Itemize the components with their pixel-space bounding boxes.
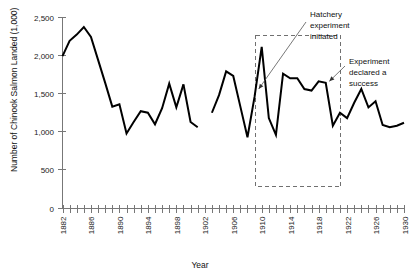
annotation-line: success (349, 79, 378, 88)
x-tick-label: 1918 (315, 216, 324, 234)
x-tick-label: 1898 (173, 216, 182, 234)
chart-container: 2,500 2,000 1,500 1,000 500 0 Number of … (0, 0, 411, 276)
x-tick-label: 1922 (344, 216, 353, 234)
y-axis-title: Number of Chinook Salmon Landed (1,000) (9, 7, 19, 172)
annotation-line: initiated (310, 32, 338, 41)
x-tick-label: 1906 (230, 216, 239, 234)
x-tick-label: 1886 (87, 216, 96, 234)
annotation-line: experiment (310, 21, 350, 30)
annotation-line: Experiment (349, 57, 390, 66)
y-tick-label: 2,000 (34, 52, 55, 61)
y-tick-label: 500 (41, 166, 55, 175)
x-tick-label: 1926 (372, 216, 381, 234)
x-tick-label: 1882 (59, 216, 68, 234)
x-tick-label: 1930 (401, 216, 410, 234)
y-tick-label: 1,000 (34, 128, 55, 137)
y-tick-label: 2,500 (34, 14, 55, 23)
y-tick-label: 0 (50, 205, 55, 214)
x-tick-label: 1894 (144, 216, 153, 234)
y-tick-label: 1,500 (34, 90, 55, 99)
x-tick-label: 1890 (116, 216, 125, 234)
salmon-landings-chart: 2,500 2,000 1,500 1,000 500 0 Number of … (0, 0, 411, 276)
annotation-line: declared a (349, 68, 387, 77)
x-tick-label: 1914 (287, 216, 296, 234)
x-tick-label: 1902 (201, 216, 210, 234)
x-axis-title: Year (191, 260, 208, 270)
x-tick-label: 1910 (258, 216, 267, 234)
annotation-line: Hatchery (310, 10, 342, 19)
